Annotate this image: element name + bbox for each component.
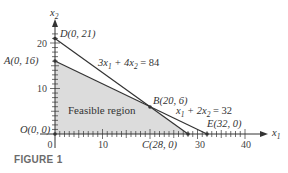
feasible-region-label: Feasible region — [68, 104, 136, 116]
lp-feasible-region-chart: x2 x1 20 10 0 10 30 40 D(0, 21) A(0, 16)… — [0, 0, 288, 173]
point-d-label: D(0, 21) — [59, 28, 96, 40]
point-e-label: E(32, 0) — [206, 118, 242, 130]
tick-y-10: 10 — [37, 83, 47, 94]
tick-x-30: 30 — [195, 139, 205, 150]
point-d-marker — [53, 37, 57, 41]
point-o-label: O(0, 0) — [20, 124, 51, 136]
equation-x1-2x2-32: x1 + 2x2 = 32 — [175, 105, 232, 119]
point-c-label: C(28, 0) — [142, 139, 178, 151]
x-axis-arrow-icon — [260, 131, 268, 137]
point-c-marker — [186, 132, 190, 136]
y-axis-label: x2 — [49, 7, 59, 21]
point-b-marker — [148, 105, 152, 109]
x-axis-label: x1 — [271, 127, 280, 141]
point-a-marker — [53, 59, 57, 63]
point-e-marker — [205, 132, 209, 136]
tick-x-40: 40 — [241, 139, 251, 150]
equation-3x1-4x2-84: 3x1 + 4x2 = 84 — [97, 57, 160, 71]
point-b-label: B(20, 6) — [153, 95, 188, 107]
point-o-marker — [53, 132, 57, 136]
point-a-label: A(0, 16) — [3, 55, 39, 67]
tick-x-0: 0 — [48, 139, 53, 150]
tick-x-10: 10 — [98, 139, 108, 150]
figure-caption: FIGURE 1 — [14, 154, 63, 165]
tick-y-20: 20 — [37, 38, 47, 49]
